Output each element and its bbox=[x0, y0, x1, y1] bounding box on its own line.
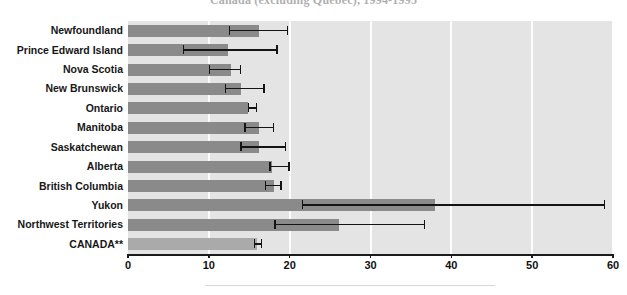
chart-title: Canada (excluding Quebec), 1994-1995 bbox=[0, 0, 627, 8]
bar bbox=[128, 122, 259, 134]
error-bar-cap-right bbox=[288, 162, 289, 171]
error-bar bbox=[209, 64, 241, 76]
error-bar bbox=[229, 25, 288, 37]
error-bar-cap-left bbox=[265, 181, 266, 190]
x-tick-30 bbox=[370, 254, 371, 258]
category-label: Manitoba bbox=[0, 121, 123, 133]
error-bar-cap-left bbox=[274, 220, 275, 229]
gridline-40 bbox=[450, 21, 452, 254]
x-tick-label: 50 bbox=[512, 259, 552, 271]
error-bar bbox=[248, 102, 258, 114]
bar bbox=[128, 102, 248, 114]
error-bar-cap-left bbox=[240, 142, 241, 151]
error-bar-line bbox=[302, 204, 605, 205]
gridline-60 bbox=[612, 21, 614, 254]
gridline-50 bbox=[531, 21, 533, 254]
category-label: Newfoundland bbox=[0, 24, 123, 36]
error-bar bbox=[274, 219, 425, 231]
x-tick-label: 0 bbox=[108, 259, 148, 271]
error-bar bbox=[240, 141, 286, 153]
bar bbox=[128, 180, 274, 192]
error-bar-cap-left bbox=[302, 200, 303, 209]
error-bar-line bbox=[183, 49, 278, 50]
error-bar bbox=[302, 199, 605, 211]
error-bar-cap-left bbox=[229, 26, 230, 35]
error-bar-cap-left bbox=[209, 65, 210, 74]
bar bbox=[128, 141, 259, 153]
error-bar bbox=[254, 238, 262, 250]
category-label: Prince Edward Island bbox=[0, 44, 123, 56]
x-tick-label: 20 bbox=[270, 259, 310, 271]
error-bar-cap-right bbox=[263, 84, 264, 93]
error-bar-cap-right bbox=[285, 142, 286, 151]
x-tick-40 bbox=[451, 254, 452, 258]
error-bar-cap-left bbox=[183, 45, 184, 54]
bar bbox=[128, 161, 272, 173]
category-label: New Brunswick bbox=[0, 82, 123, 94]
footnote-rule bbox=[205, 285, 495, 286]
error-bar-line bbox=[244, 127, 274, 128]
error-bar-cap-right bbox=[604, 200, 605, 209]
error-bar-cap-right bbox=[240, 65, 241, 74]
x-tick-50 bbox=[531, 254, 532, 258]
error-bar-line bbox=[229, 30, 288, 31]
error-bar-cap-left bbox=[248, 103, 249, 112]
error-bar bbox=[269, 161, 289, 173]
error-bar-cap-right bbox=[280, 181, 281, 190]
category-label: Nova Scotia bbox=[0, 63, 123, 75]
x-tick-10 bbox=[208, 254, 209, 258]
error-bar-line bbox=[265, 185, 282, 186]
error-bar-cap-right bbox=[256, 103, 257, 112]
x-tick-60 bbox=[612, 254, 613, 258]
error-bar-line bbox=[274, 224, 425, 225]
error-bar bbox=[244, 122, 274, 134]
x-tick-label: 40 bbox=[431, 259, 471, 271]
category-label: CANADA** bbox=[0, 238, 123, 250]
error-bar-cap-left bbox=[254, 239, 255, 248]
category-label: Saskatchewan bbox=[0, 141, 123, 153]
error-bar bbox=[183, 44, 278, 56]
error-bar-cap-right bbox=[276, 45, 277, 54]
x-tick-20 bbox=[289, 254, 290, 258]
error-bar-cap-right bbox=[287, 26, 288, 35]
error-bar bbox=[225, 83, 265, 95]
error-bar-cap-left bbox=[269, 162, 270, 171]
category-label: Northwest Territories bbox=[0, 218, 123, 230]
error-bar-line bbox=[209, 69, 241, 70]
category-label: British Columbia bbox=[0, 180, 123, 192]
x-tick-label: 10 bbox=[189, 259, 229, 271]
error-bar-cap-right bbox=[273, 123, 274, 132]
chart-container: Canada (excluding Quebec), 1994-1995 New… bbox=[0, 0, 627, 295]
bar bbox=[128, 238, 257, 250]
error-bar-line bbox=[269, 166, 289, 167]
error-bar-cap-right bbox=[261, 239, 262, 248]
category-label: Ontario bbox=[0, 102, 123, 114]
category-label: Alberta bbox=[0, 160, 123, 172]
category-label: Yukon bbox=[0, 199, 123, 211]
error-bar-cap-left bbox=[244, 123, 245, 132]
error-bar-line bbox=[225, 88, 265, 89]
x-tick-label: 60 bbox=[593, 259, 627, 271]
error-bar bbox=[265, 180, 282, 192]
error-bar-cap-left bbox=[225, 84, 226, 93]
x-tick-label: 30 bbox=[351, 259, 391, 271]
error-bar-cap-right bbox=[424, 220, 425, 229]
x-tick-0 bbox=[127, 254, 128, 258]
error-bar-line bbox=[240, 146, 286, 147]
